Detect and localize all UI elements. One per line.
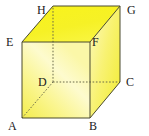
cube-svg [0,0,149,136]
vertex-label-E: E [6,36,13,48]
cube-faces-group [22,6,120,118]
vertex-label-B: B [89,120,97,132]
vertex-label-C: C [126,76,134,88]
vertex-label-G: G [127,4,136,16]
vertex-label-H: H [37,4,46,16]
cube-diagram: A B C D E F G H [0,0,149,136]
vertex-label-F: F [92,36,99,48]
vertex-label-D: D [38,76,47,88]
face-front [22,42,90,118]
vertex-label-A: A [8,120,17,132]
